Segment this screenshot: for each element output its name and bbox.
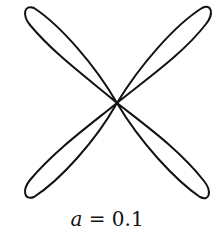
petal-top-left xyxy=(25,7,117,103)
caption-variable: a xyxy=(70,207,82,231)
caption-equals: = xyxy=(82,207,111,231)
petal-top-right xyxy=(117,7,211,103)
parameter-caption: a = 0.1 xyxy=(0,205,214,233)
petal-bottom-left xyxy=(25,103,117,198)
caption-value: 0.1 xyxy=(112,207,144,231)
petal-bottom-right xyxy=(117,103,209,198)
four-petal-curve xyxy=(0,0,214,205)
